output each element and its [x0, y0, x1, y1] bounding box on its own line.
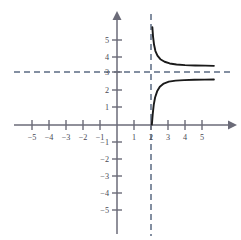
- x-axis-tick-labels: −5 −4 −3 −2 −1 1 2 3 4 5: [28, 133, 204, 142]
- y-tick-label: −5: [100, 206, 109, 215]
- y-tick-label: 1: [105, 103, 109, 112]
- x-axis-arrowhead-icon: [228, 121, 237, 130]
- curve-lower-branch: [152, 79, 214, 124]
- y-tick-label: −3: [100, 172, 109, 181]
- y-tick-label: 2: [105, 86, 109, 95]
- y-tick-label: −2: [100, 155, 109, 164]
- x-tick-label: 4: [183, 133, 187, 142]
- y-tick-label: 5: [105, 36, 109, 45]
- x-tick-label: −5: [28, 133, 37, 142]
- rational-function-graph: −5 −4 −3 −2 −1 1 2 3 4 5 5 4 3 2 1 −1 −2…: [0, 0, 241, 240]
- y-tick-label: 4: [105, 53, 109, 62]
- y-axis-arrowhead-icon: [113, 11, 122, 20]
- x-tick-label: 3: [166, 133, 170, 142]
- plot-canvas: −5 −4 −3 −2 −1 1 2 3 4 5 5 4 3 2 1 −1 −2…: [0, 0, 241, 240]
- x-tick-label: −2: [79, 133, 88, 142]
- y-tick-label: −1: [100, 138, 109, 147]
- y-tick-label: 3: [105, 68, 109, 77]
- x-tick-label: 5: [200, 133, 204, 142]
- x-tick-label: 1: [132, 133, 136, 142]
- curve-upper-branch: [152, 27, 214, 66]
- x-tick-label: −3: [62, 133, 71, 142]
- y-tick-label: −4: [100, 189, 109, 198]
- x-tick-label: −4: [45, 133, 54, 142]
- x-tick-label: 2: [149, 133, 153, 142]
